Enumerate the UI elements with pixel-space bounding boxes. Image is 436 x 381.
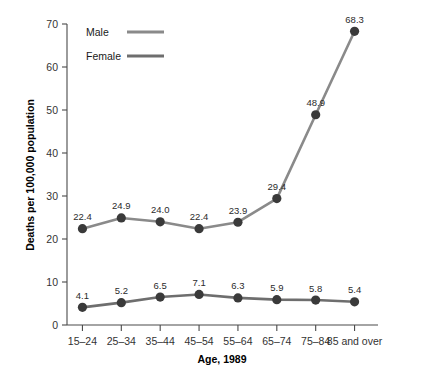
x-tick-label: 65–74 xyxy=(262,335,291,347)
series-line-male xyxy=(82,31,354,228)
data-label-female-4: 6.3 xyxy=(231,280,244,291)
data-label-male-4: 23.9 xyxy=(229,205,248,216)
data-label-male-7: 68.3 xyxy=(345,14,364,25)
false xyxy=(156,217,165,226)
false xyxy=(78,303,87,312)
false xyxy=(78,224,87,233)
y-axis-ticks: 010203040506070 xyxy=(46,18,67,331)
x-tick-label: 85 and over xyxy=(327,335,383,347)
false xyxy=(156,292,165,301)
x-tick-label: 15–24 xyxy=(68,335,97,347)
x-tick-label: 45–54 xyxy=(184,335,213,347)
chart-figure: 010203040506070 15–2425–3435–4445–5455–6… xyxy=(0,0,436,381)
data-label-female-1: 5.2 xyxy=(115,285,128,296)
x-axis-ticks: 15–2425–3435–4445–5455–6465–7475–8485 an… xyxy=(68,325,383,347)
y-tick-label: 50 xyxy=(46,104,58,116)
false xyxy=(194,290,203,299)
y-tick-label: 10 xyxy=(46,276,58,288)
false xyxy=(311,110,320,119)
y-tick-label: 30 xyxy=(46,190,58,202)
y-tick-label: 70 xyxy=(46,18,58,30)
data-label-male-6: 48.9 xyxy=(306,97,325,108)
data-label-male-2: 24.0 xyxy=(151,204,170,215)
data-label-female-0: 4.1 xyxy=(76,290,89,301)
x-tick-label: 25–34 xyxy=(107,335,136,347)
y-tick-label: 0 xyxy=(52,319,58,331)
series-layer xyxy=(78,27,359,312)
false xyxy=(272,194,281,203)
data-label-female-3: 7.1 xyxy=(192,277,205,288)
false xyxy=(311,295,320,304)
y-axis-title: Deaths per 100,000 population xyxy=(24,99,36,251)
line-chart: 010203040506070 15–2425–3435–4445–5455–6… xyxy=(0,0,436,381)
y-tick-label: 40 xyxy=(46,147,58,159)
y-tick-label: 20 xyxy=(46,233,58,245)
data-label-male-1: 24.9 xyxy=(112,200,131,211)
false xyxy=(194,224,203,233)
false xyxy=(233,293,242,302)
chart-legend: MaleFemale xyxy=(86,26,164,62)
false xyxy=(233,218,242,227)
data-label-female-7: 5.4 xyxy=(348,284,361,295)
false xyxy=(350,297,359,306)
axes xyxy=(67,24,378,325)
x-tick-label: 35–44 xyxy=(146,335,175,347)
x-axis-title: Age, 1989 xyxy=(197,353,246,365)
data-label-female-6: 5.8 xyxy=(309,283,322,294)
data-label-male-0: 22.4 xyxy=(73,211,92,222)
y-tick-label: 60 xyxy=(46,61,58,73)
false xyxy=(117,213,126,222)
false xyxy=(117,298,126,307)
x-tick-label: 55–64 xyxy=(223,335,252,347)
data-label-male-5: 29.4 xyxy=(268,181,287,192)
data-label-female-2: 6.5 xyxy=(154,280,167,291)
false xyxy=(350,27,359,36)
data-label-male-3: 22.4 xyxy=(190,211,209,222)
data-label-female-5: 5.9 xyxy=(270,282,283,293)
legend-label-male: Male xyxy=(86,26,109,38)
legend-label-female: Female xyxy=(86,50,121,62)
false xyxy=(272,295,281,304)
